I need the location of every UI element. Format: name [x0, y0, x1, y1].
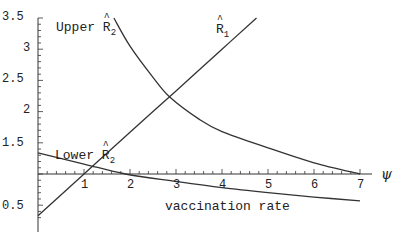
x-tick-3: 3	[173, 178, 180, 192]
y-tick-2-5: 2.5	[2, 72, 24, 86]
label-lower-r2: Lower R2	[55, 148, 115, 166]
x-axis-symbol: ψ	[381, 166, 392, 182]
curve-1	[114, 18, 360, 174]
x-tick-1: 1	[81, 178, 88, 192]
x-tick-4: 4	[219, 178, 226, 192]
y-tick-0-5: 0.5	[2, 199, 24, 213]
x-axis-label: vaccination rate	[165, 199, 290, 214]
x-tick-6: 6	[311, 178, 318, 192]
x-tick-5: 5	[265, 178, 272, 192]
y-tick-2: 2	[23, 103, 30, 117]
y-tick-3-5: 3.5	[2, 10, 24, 24]
x-tick-2: 2	[127, 178, 134, 192]
y-tick-1-5: 1.5	[2, 136, 24, 150]
label-upper-r2: Upper R2	[56, 20, 116, 38]
y-tick-3: 3	[23, 41, 30, 55]
x-tick-7: 7	[357, 178, 364, 192]
label-r1: R1	[216, 22, 229, 40]
